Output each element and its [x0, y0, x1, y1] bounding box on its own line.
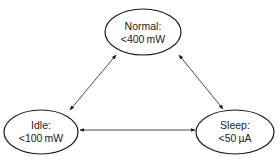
node-normal-title: Normal: — [113, 20, 173, 33]
node-normal: Normal: <400 mW — [113, 20, 173, 46]
power-state-diagram: Normal: <400 mW Idle: <100 mW Sleep: <50… — [0, 0, 280, 166]
node-normal-value: <400 mW — [113, 33, 173, 46]
node-sleep-title: Sleep: — [205, 119, 265, 132]
edge-normal-sleep — [179, 55, 223, 109]
node-sleep: Sleep: <50 µA — [205, 119, 265, 145]
node-idle-title: Idle: — [11, 119, 71, 132]
node-sleep-value: <50 µA — [205, 132, 265, 145]
node-idle: Idle: <100 mW — [11, 119, 71, 145]
node-idle-value: <100 mW — [11, 132, 71, 145]
edge-normal-idle — [70, 55, 116, 110]
